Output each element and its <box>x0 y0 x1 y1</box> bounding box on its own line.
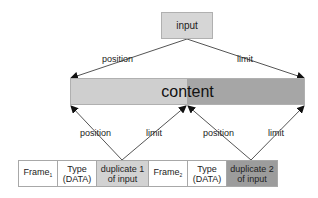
bottom2-position-label: position <box>203 128 234 138</box>
frame1-type-cell: Type (DATA) <box>57 160 97 187</box>
frame2-duplicate-cell: duplicate 2 of input <box>226 160 278 187</box>
frame1-type-line2: (DATA) <box>63 174 92 184</box>
frame1-name-text: Frame <box>24 167 50 177</box>
frame2-type-line2: (DATA) <box>193 174 222 184</box>
frame1-dup-line2: of input <box>108 174 138 184</box>
content-label: content <box>70 78 305 105</box>
input-label: input <box>176 20 198 31</box>
frame2-dup-line1: duplicate 2 <box>230 164 274 174</box>
frame2-type-cell: Type (DATA) <box>187 160 227 187</box>
input-box: input <box>161 12 213 39</box>
bottom1-position-label: position <box>80 128 111 138</box>
frame1-dup-line1: duplicate 1 <box>101 164 145 174</box>
frame1-subscript: 1 <box>50 172 53 178</box>
frame2-cell: Frame2 <box>148 160 188 187</box>
top-position-label: position <box>102 54 133 64</box>
frame2-name: Frame2 <box>154 167 183 180</box>
frame2-subscript: 2 <box>180 172 183 178</box>
frame1-duplicate-cell: duplicate 1 of input <box>96 160 149 187</box>
frame1-name: Frame1 <box>24 167 53 180</box>
frame2-name-text: Frame <box>154 167 180 177</box>
bottom2-limit-label: limit <box>268 128 284 138</box>
frame2-type-line1: Type <box>197 164 217 174</box>
frame1-type-line1: Type <box>67 164 87 174</box>
bottom1-limit-label: limit <box>146 128 162 138</box>
top-limit-label: limit <box>237 54 253 64</box>
frame1-cell: Frame1 <box>18 160 58 187</box>
frame2-dup-line2: of input <box>237 174 267 184</box>
